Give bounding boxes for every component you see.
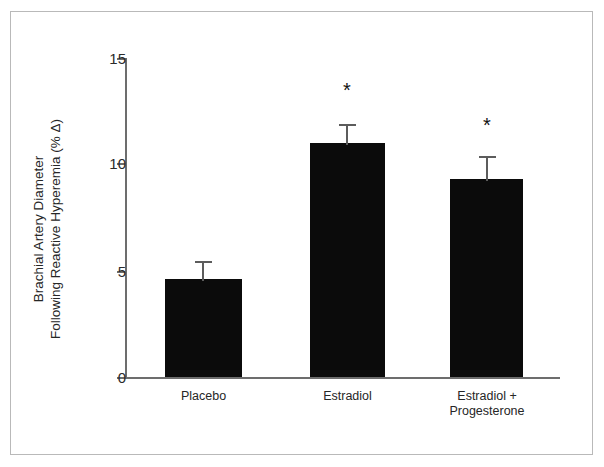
y-tick-10: 10 (75, 156, 126, 158)
category-label-estradiol-progesterone-line-1: Estradiol + (432, 389, 542, 404)
y-tick-label-5: 5 (92, 264, 126, 279)
error-bar-stem-estradiol-progesterone (486, 156, 488, 181)
y-tick-5: 5 (75, 264, 126, 266)
bar-estradiol (310, 143, 385, 377)
bar-placebo (165, 279, 242, 377)
y-tick-label-10: 10 (92, 156, 126, 171)
y-axis-title-line-2: Following Reactive Hyperemia (% Δ) (47, 79, 64, 379)
y-tick-15: 15 (75, 51, 126, 53)
x-axis-line (125, 377, 560, 379)
error-bar-stem-estradiol (346, 124, 348, 145)
significance-asterisk-estradiol: * (335, 80, 359, 100)
y-axis-title-line-1: Brachial Artery Diameter (30, 79, 47, 379)
error-bar-cap-placebo (195, 261, 212, 263)
category-label-estradiol: Estradiol (300, 389, 395, 404)
category-label-estradiol-line-1: Estradiol (300, 389, 395, 404)
y-axis-line (125, 58, 127, 379)
error-bar-cap-estradiol-progesterone (479, 156, 496, 158)
category-label-placebo: Placebo (155, 389, 252, 404)
bar-chart: Brachial Artery Diameter Following React… (0, 0, 604, 467)
error-bar-cap-estradiol (339, 124, 356, 126)
category-label-estradiol-progesterone: Estradiol + Progesterone (432, 389, 542, 419)
y-tick-label-0: 0 (92, 370, 126, 385)
y-axis-title: Brachial Artery Diameter Following React… (30, 79, 64, 379)
significance-asterisk-estradiol-progesterone: * (475, 115, 499, 135)
category-label-placebo-line-1: Placebo (155, 389, 252, 404)
bar-estradiol-progesterone (450, 179, 523, 377)
error-bar-stem-placebo (202, 261, 204, 281)
category-label-estradiol-progesterone-line-2: Progesterone (432, 404, 542, 419)
y-tick-label-15: 15 (92, 51, 126, 66)
y-tick-0: 0 (75, 370, 126, 372)
